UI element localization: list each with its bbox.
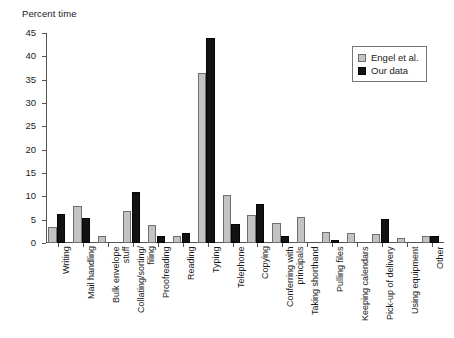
bar-group [121,33,146,243]
bar [206,38,214,243]
x-axis-label-line1: Writing [61,246,71,274]
bar [57,214,65,243]
x-axis-label-line1: Using equipment [410,246,420,314]
x-axis-label-line1: Copying [260,246,270,279]
bar [247,215,255,243]
bar [223,195,231,243]
x-axis-label-line1: Taking shorthand [310,246,320,315]
y-tick-label-20: 20 [25,145,36,155]
x-axis-label: Conferring withprincipals [286,246,306,307]
x-axis-label-line1: Bulk envelope [111,246,121,303]
bar [132,192,140,243]
x-axis-label: Taking shorthand [311,246,321,315]
x-axis-label-line1: Collating/sorting/ [136,246,146,313]
bar [123,211,131,243]
x-axis-label-line1: Keeping calendars [360,246,370,321]
bar [48,227,56,243]
bar-group [245,33,270,243]
bar [381,219,389,243]
bar [281,236,289,243]
x-axis-labels: WritingMail handlingBulk envelopestuffCo… [46,246,444,338]
x-axis-label-line1: Typing [211,246,221,273]
legend-item-engel: Engel et al. [358,51,419,64]
x-axis-label-line1: Reading [186,246,196,280]
y-tick-label-45: 45 [25,28,36,38]
x-axis-label-line1: Other [435,246,445,269]
y-tick-label-15: 15 [25,168,36,178]
bar-group [146,33,171,243]
x-axis-label-line2: filing [147,246,157,313]
bar [231,224,239,243]
bar-group [270,33,295,243]
y-tick-label-10: 10 [25,192,36,202]
y-tick-label-40: 40 [25,52,36,62]
bar-group [46,33,71,243]
legend-label-our-data: Our data [371,65,408,76]
x-axis-label: Other [436,246,446,269]
bar [372,234,380,243]
legend-swatch-icon-our-data [358,67,366,75]
bar-group [295,33,320,243]
y-tick-0: 0 [42,243,46,244]
bar-group [320,33,345,243]
bar [98,236,106,243]
bar [73,206,81,243]
bar [347,233,355,243]
legend-swatch-icon-engel [358,54,366,62]
bar [272,223,280,243]
bar-group [96,33,121,243]
x-axis-label: Collating/sorting/filing [137,246,157,313]
bar [256,204,264,243]
bar [430,236,438,243]
bar [198,73,206,243]
x-axis-label-line1: Pulling files [335,246,345,292]
x-axis-label: Reading [187,246,197,280]
x-axis-label: Using equipment [411,246,421,314]
x-axis-label: Proofreading [162,246,172,298]
bar-group [220,33,245,243]
bar-group [195,33,220,243]
x-axis-label: Copying [261,246,271,279]
x-axis-label-line2: stuff [122,246,132,303]
bar [157,236,165,243]
x-axis-label: Pick-up of delivery [386,246,396,320]
y-tick-label-0: 0 [31,238,36,248]
legend-label-engel: Engel et al. [371,52,419,63]
x-axis-label: Typing [212,246,222,273]
bar [182,233,190,243]
bar [82,218,90,243]
bar [397,238,405,243]
x-axis-label: Pulling files [336,246,346,292]
chart-legend: Engel et al. Our data [352,46,427,82]
bar-group [170,33,195,243]
x-axis-label-line1: Pick-up of delivery [385,246,395,320]
bar [297,217,305,243]
y-axis-title: Percent time [22,8,77,19]
x-axis-label: Keeping calendars [361,246,371,321]
y-tick-label-5: 5 [31,215,36,225]
bar [422,236,430,243]
x-axis-label-line1: Telephone [236,246,246,288]
y-tick-label-35: 35 [25,75,36,85]
legend-item-our-data: Our data [358,64,419,77]
x-axis-label-line1: Mail handling [86,246,96,299]
x-axis-label-line1: Conferring with [285,246,295,307]
y-tick-label-30: 30 [25,98,36,108]
x-axis-label-line2: principals [296,246,306,307]
x-axis-label: Mail handling [87,246,97,299]
x-axis-label: Telephone [237,246,247,288]
bar [148,225,156,243]
bar [322,232,330,243]
x-axis-label: Writing [62,246,72,274]
bar [173,236,181,243]
bar-group [71,33,96,243]
x-axis-label: Bulk envelopestuff [112,246,132,303]
x-axis-label-line1: Proofreading [161,246,171,298]
y-tick-label-25: 25 [25,122,36,132]
bar-chart: Percent time 051015202530354045 WritingM… [0,0,454,338]
